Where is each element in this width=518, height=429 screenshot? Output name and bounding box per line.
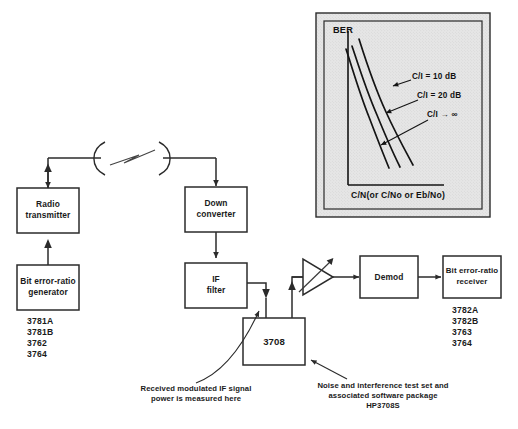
callout-if-power-line1: Received modulated IF signal bbox=[141, 384, 252, 393]
block-down-converter[interactable]: Down converter bbox=[185, 187, 247, 232]
wire-transmitter-up bbox=[44, 164, 52, 189]
block-ber-receiver[interactable]: Bit error-ratio receiver bbox=[443, 256, 501, 298]
callout-if-power-line2: power is measured here bbox=[151, 394, 242, 403]
block-if-filter[interactable]: IF filter bbox=[185, 263, 247, 308]
variable-gain-amplifier-icon bbox=[292, 258, 359, 295]
model-numbers-receive-side: 3782A 3782B 3763 3764 bbox=[452, 305, 478, 348]
down-converter-label-line1: Down bbox=[204, 198, 227, 208]
model-number-item: 3762 bbox=[27, 338, 47, 348]
model-number-item: 3782A bbox=[452, 305, 478, 315]
ber-generator-label-line1: Bit error-ratio bbox=[20, 276, 75, 286]
ber-chart-inset: BER C/N(or C/No or Eb/No) C/I = 10 dB C/… bbox=[316, 13, 490, 217]
model-number-item: 3781B bbox=[27, 327, 53, 337]
block-demod[interactable]: Demod bbox=[360, 256, 418, 298]
callout-noise-line3: HP3708S bbox=[366, 401, 400, 410]
callout-if-power: Received modulated IF signal power is me… bbox=[141, 311, 259, 403]
rf-propagation-icon bbox=[48, 142, 216, 175]
chart-label-ci-infinity: C/I → ∞ bbox=[427, 110, 457, 119]
if-filter-label-line2: filter bbox=[207, 285, 226, 295]
callout-noise-line2: associated software package bbox=[328, 391, 438, 400]
if-filter-label-line1: IF bbox=[212, 274, 220, 284]
model-number-item: 3764 bbox=[452, 338, 472, 348]
model-numbers-transmit-side: 3781A 3781B 3762 3764 bbox=[27, 316, 53, 359]
block-radio-transmitter[interactable]: Radio transmitter bbox=[17, 188, 79, 233]
callout-noise-line1: Noise and interference test set and bbox=[317, 381, 448, 390]
radio-transmitter-label-line1: Radio bbox=[36, 199, 60, 209]
block-diagram: Radio transmitter Bit error-ratio genera… bbox=[0, 0, 518, 429]
test-set-3708-label: 3708 bbox=[263, 336, 285, 347]
chart-label-ci-10db: C/I = 10 dB bbox=[412, 72, 456, 81]
down-converter-label-line2: converter bbox=[196, 209, 236, 219]
model-number-item: 3764 bbox=[27, 349, 47, 359]
radio-transmitter-label-line2: transmitter bbox=[26, 210, 71, 220]
chart-label-ci-20db: C/I = 20 dB bbox=[417, 91, 461, 100]
model-number-item: 3782B bbox=[452, 316, 478, 326]
block-ber-generator[interactable]: Bit error-ratio generator bbox=[17, 265, 79, 310]
ber-receiver-label-line2: receiver bbox=[456, 277, 487, 286]
chart-ylabel: BER bbox=[333, 25, 353, 35]
ber-generator-label-line2: generator bbox=[28, 287, 68, 297]
chart-xlabel: C/N(or C/No or Eb/No) bbox=[351, 190, 445, 200]
wire-generator-to-transmitter bbox=[44, 239, 52, 265]
demod-label: Demod bbox=[375, 272, 404, 282]
model-number-item: 3781A bbox=[27, 316, 53, 326]
callout-noise-test-set: Noise and interference test set and asso… bbox=[311, 360, 449, 410]
ber-receiver-label-line1: Bit error-ratio bbox=[446, 266, 498, 275]
wire-3708-to-amplifier bbox=[288, 277, 303, 318]
model-number-item: 3763 bbox=[452, 327, 472, 337]
diagram-canvas: Radio transmitter Bit error-ratio genera… bbox=[0, 0, 518, 429]
